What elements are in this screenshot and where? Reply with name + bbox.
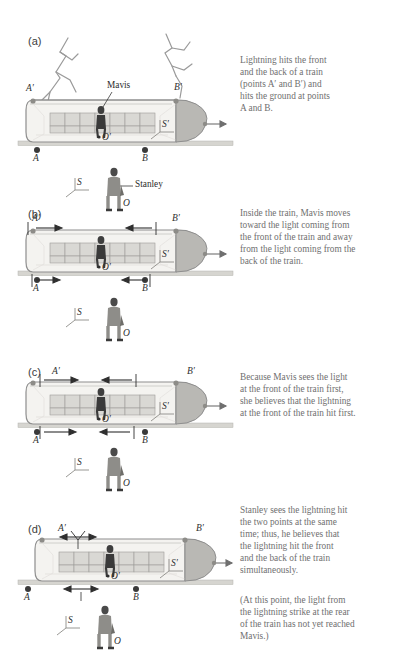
caption-line: Inside the train, Mavis moves	[240, 207, 410, 219]
panel-b-scene: A′ B′ A B O′ O S′ S	[0, 195, 240, 355]
train-origin-marker	[97, 135, 100, 138]
train-origin-marker	[106, 574, 109, 577]
label-train-front-d: B′	[196, 523, 204, 533]
caption-line: Because Mavis sees the light	[240, 371, 410, 383]
caption-line: toward the light coming from	[240, 219, 410, 231]
caption-line: A and B.	[240, 102, 408, 114]
caption-line: Stanley sees the lightning hit	[240, 504, 410, 516]
light-arrows-ground	[32, 274, 150, 287]
label-train-frame-b: S′	[162, 249, 169, 259]
label-ground-rear-b: A	[33, 283, 39, 293]
panel-a: (a)	[0, 20, 411, 195]
caption-line: the lightning strike at the rear	[240, 606, 411, 618]
label-train-rear-a: A′	[26, 83, 34, 93]
label-ground-front-b: B	[142, 283, 148, 293]
caption-line: the front of the train and away	[240, 231, 410, 243]
caption-line: at the front of the train hit first.	[240, 407, 410, 419]
caption-line: the lightning hit the front	[240, 540, 410, 552]
label-ground-front-d: B	[133, 592, 139, 602]
label-train-front-c: B′	[187, 366, 195, 376]
train-front-dot	[173, 228, 178, 233]
train-front-dot	[173, 380, 178, 385]
label-ground-origin-c: O	[123, 478, 130, 488]
stanley-figure	[106, 448, 124, 490]
label-train-rear-b: A′	[32, 213, 40, 223]
train-nose	[185, 539, 216, 581]
caption-line: Mavis.)	[240, 630, 411, 642]
caption-line: (points A′ and B′) and	[240, 78, 408, 90]
caption-line: simultaneously.	[240, 564, 410, 576]
caption-line: the two points at the same	[240, 516, 410, 528]
caption-line: hits the ground at points	[240, 90, 408, 102]
panel-a-caption: Lightning hits the front and the back of…	[240, 54, 408, 114]
mavis-callout-label: Mavis	[107, 80, 130, 90]
label-train-frame-a: S′	[162, 119, 169, 129]
caption-line: of the train has not yet reached	[240, 618, 411, 630]
panel-c-caption: Because Mavis sees the light at the fron…	[240, 371, 410, 419]
label-train-origin-c: O′	[102, 414, 111, 424]
label-train-origin-d: O′	[111, 571, 120, 581]
label-ground-origin-b: O	[123, 328, 130, 338]
panel-a-scene: A′ B′ A B O′ O S′ S Mavis Stanley	[0, 20, 240, 195]
panel-d-scene: A′ B′ A B O′ O S′ S	[0, 500, 240, 660]
panel-d: (d)	[0, 500, 411, 660]
panel-c-scene: A′ B′ A B O′ O S′ S	[0, 355, 240, 500]
label-train-rear-c: A′	[52, 366, 60, 376]
train-nose	[176, 230, 207, 272]
train-rear-dot	[30, 380, 35, 385]
train-nose	[176, 100, 207, 142]
label-train-rear-d: A′	[58, 523, 66, 533]
label-ground-rear-a: A	[33, 153, 39, 163]
label-ground-front-c: B	[142, 435, 148, 445]
panel-d-caption-secondary: (At this point, the light from the light…	[240, 594, 411, 642]
label-train-front-a: B′	[174, 82, 182, 92]
caption-line: and the back of the train	[240, 552, 410, 564]
train-front-dot	[173, 98, 178, 103]
caption-line: time; thus, he believes that	[240, 528, 410, 540]
train-rear-dot	[30, 98, 35, 103]
train-origin-marker	[97, 417, 100, 420]
panel-d-caption: Stanley sees the lightning hit the two p…	[240, 504, 410, 577]
stanley-callout-label: Stanley	[135, 179, 163, 189]
label-ground-origin-d: O	[114, 636, 121, 646]
stanley-figure	[106, 298, 124, 340]
label-train-frame-c: S′	[162, 401, 169, 411]
caption-line: Lightning hits the front	[240, 54, 408, 66]
panel-b-caption: Inside the train, Mavis moves toward the…	[240, 207, 410, 267]
label-ground-frame-c: S	[77, 457, 82, 467]
caption-line: at the front of the train first,	[240, 383, 410, 395]
stanley-figure	[97, 606, 115, 648]
train-rear-dot	[39, 537, 44, 542]
caption-line: (At this point, the light from	[240, 594, 411, 606]
panel-b: (b)	[0, 195, 411, 355]
light-arrows-ground	[40, 426, 134, 439]
label-train-origin-b: O′	[102, 262, 111, 272]
train-origin-marker	[97, 265, 100, 268]
train-nose	[176, 382, 207, 424]
label-ground-rear-c: A	[33, 435, 39, 445]
label-ground-frame-b: S	[77, 307, 82, 317]
caption-line: back of the train.	[240, 255, 410, 267]
label-ground-frame-d: S	[68, 615, 73, 625]
train-rear-dot	[30, 228, 35, 233]
caption-line: and the back of a train	[240, 66, 408, 78]
light-arrows-ground	[64, 586, 98, 601]
label-ground-front-a: B	[142, 153, 148, 163]
panel-c: (c)	[0, 355, 411, 500]
label-ground-frame-a: S	[77, 177, 82, 187]
train-front-dot	[182, 537, 187, 542]
caption-line: she believes that the lightning	[240, 395, 410, 407]
label-ground-rear-d: A	[24, 592, 30, 602]
label-train-origin-a: O′	[102, 132, 111, 142]
label-train-front-b: B′	[172, 213, 180, 223]
label-train-frame-d: S′	[171, 558, 178, 568]
caption-line: from the light coming from the	[240, 243, 410, 255]
